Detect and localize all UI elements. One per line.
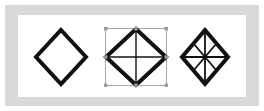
handle-bottom-left[interactable]: [104, 84, 108, 88]
handle-top-left[interactable]: [104, 27, 108, 31]
diamond-outline-shape[interactable]: [36, 30, 86, 84]
diamond-cross-svg: [96, 0, 176, 111]
figure-diamond-cross-selected[interactable]: [96, 0, 176, 111]
handle-bottom-right[interactable]: [165, 84, 169, 88]
figure-diamond-eight-spokes[interactable]: [174, 0, 236, 111]
plain-diamond-svg: [28, 0, 94, 111]
figure-plain-diamond[interactable]: [28, 0, 94, 111]
screenshot-root: [0, 0, 264, 111]
handle-bottom-center[interactable]: [134, 84, 138, 88]
handle-top-center[interactable]: [134, 27, 138, 31]
diamond-spokes-svg: [174, 0, 236, 111]
handle-middle-right[interactable]: [165, 55, 169, 59]
handle-top-right[interactable]: [165, 27, 169, 31]
handle-middle-left[interactable]: [104, 55, 108, 59]
